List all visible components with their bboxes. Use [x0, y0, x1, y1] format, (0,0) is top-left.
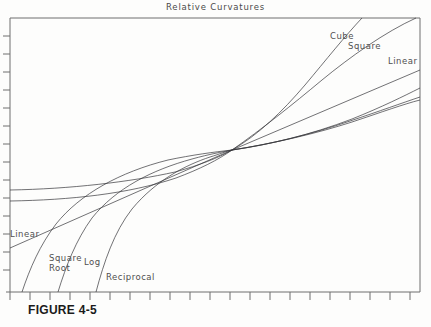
curve-log: [58, 97, 420, 292]
label-square-root-line2: Root: [49, 263, 70, 273]
left-axis-ticks: [3, 36, 10, 270]
bottom-axis-ticks: [10, 292, 410, 300]
label-square: Square: [348, 41, 381, 51]
label-linear-upper: Linear: [388, 56, 417, 66]
label-linear-lower: Linear: [10, 229, 39, 239]
label-log: Log: [84, 257, 101, 267]
label-square-root-line1: Square: [49, 253, 82, 263]
curve-reciprocal: [96, 100, 420, 292]
figure-caption: FIGURE 4-5: [28, 303, 97, 317]
curve-cube: [10, 18, 362, 190]
curve-linear-upper: [10, 70, 420, 248]
figure-container: Relative Curvatures: [0, 0, 431, 327]
label-reciprocal: Reciprocal: [106, 272, 155, 282]
label-cube: Cube: [330, 31, 354, 41]
